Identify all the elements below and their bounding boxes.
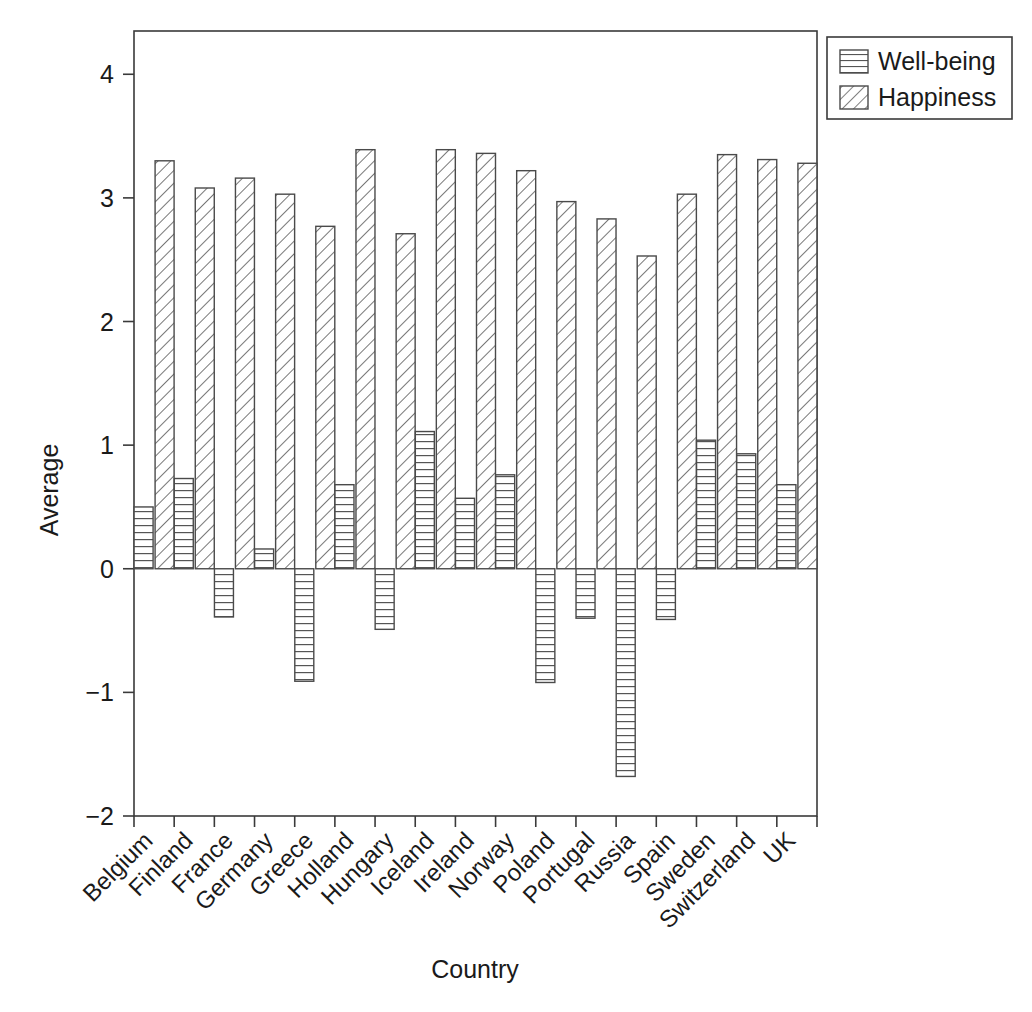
- bar-happiness-hungary: [396, 234, 415, 569]
- legend-swatch-well-being: [840, 50, 868, 73]
- chart-figure: −2−101234 BelgiumFinlandFranceGermanyGre…: [0, 0, 1032, 1012]
- bar-well-being-finland: [174, 479, 193, 569]
- bar-well-being-germany: [255, 549, 274, 569]
- bar-happiness-belgium: [155, 161, 174, 569]
- bar-well-being-france: [214, 569, 233, 617]
- bar-happiness-poland: [557, 202, 576, 569]
- y-tick-label: −2: [85, 802, 114, 830]
- bar-happiness-switzerland: [758, 160, 777, 569]
- bar-happiness-sweden: [718, 155, 737, 569]
- bars-layer: [134, 150, 817, 777]
- bar-well-being-norway: [496, 475, 515, 569]
- y-tick-label: 4: [100, 60, 114, 88]
- bar-well-being-belgium: [134, 507, 153, 569]
- bar-well-being-portugal: [576, 569, 595, 618]
- legend-label-well-being: Well-being: [878, 47, 996, 75]
- bar-well-being-hungary: [375, 569, 394, 630]
- x-category-label-uk: UK: [758, 826, 801, 869]
- bar-well-being-switzerland: [737, 454, 756, 569]
- y-tick-label: −1: [85, 678, 114, 706]
- bar-well-being-greece: [295, 569, 314, 681]
- bar-happiness-germany: [276, 194, 295, 569]
- bar-happiness-ireland: [477, 153, 496, 568]
- legend-label-happiness: Happiness: [878, 83, 996, 111]
- bar-well-being-uk: [777, 485, 796, 569]
- bar-well-being-iceland: [415, 432, 434, 569]
- bar-happiness-portugal: [597, 219, 616, 569]
- bar-well-being-sweden: [697, 440, 716, 569]
- bar-happiness-greece: [316, 226, 335, 568]
- y-axis-title: Average: [35, 444, 63, 537]
- bar-happiness-uk: [798, 163, 817, 568]
- bar-happiness-norway: [517, 171, 536, 569]
- y-tick-label: 3: [100, 184, 114, 212]
- bar-well-being-holland: [335, 485, 354, 569]
- y-tick-label: 2: [100, 308, 114, 336]
- legend-swatch-happiness: [840, 86, 868, 109]
- x-axis-category-labels: BelgiumFinlandFranceGermanyGreeceHolland…: [77, 826, 800, 933]
- y-tick-label: 0: [100, 555, 114, 583]
- bar-happiness-spain: [677, 194, 696, 569]
- chart-legend: Well-being Happiness: [827, 37, 1012, 119]
- bar-well-being-russia: [616, 569, 635, 777]
- bar-happiness-iceland: [436, 150, 455, 569]
- bar-happiness-finland: [195, 188, 214, 569]
- x-axis-title: Country: [431, 955, 519, 983]
- bar-well-being-poland: [536, 569, 555, 683]
- bar-happiness-russia: [637, 256, 656, 569]
- bar-happiness-france: [235, 178, 254, 569]
- grouped-bar-chart: −2−101234 BelgiumFinlandFranceGermanyGre…: [0, 0, 1032, 1012]
- bar-well-being-ireland: [456, 498, 475, 568]
- bar-happiness-holland: [356, 150, 375, 569]
- x-axis-ticks: [134, 816, 817, 827]
- y-axis-ticks: −2−101234: [85, 60, 134, 830]
- bar-well-being-spain: [656, 569, 675, 620]
- y-tick-label: 1: [100, 431, 114, 459]
